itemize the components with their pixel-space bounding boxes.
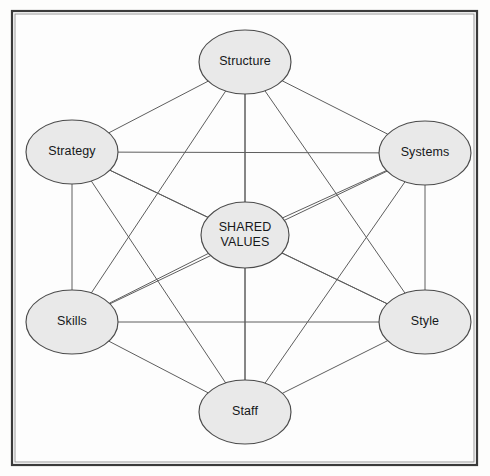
node-skills[interactable]: Skills bbox=[26, 290, 118, 354]
node-shared_values[interactable]: SHAREDVALUES bbox=[201, 202, 289, 268]
node-style[interactable]: Style bbox=[379, 290, 471, 354]
node-label-style: Style bbox=[411, 314, 439, 328]
node-label-strategy: Strategy bbox=[48, 144, 96, 158]
node-label-shared_values-line-2: VALUES bbox=[220, 235, 269, 249]
node-label-staff: Staff bbox=[232, 404, 258, 418]
node-label-systems: Systems bbox=[401, 145, 450, 159]
node-label-skills: Skills bbox=[57, 314, 87, 328]
diagram-canvas: StructureSystemsStyleStaffSkillsStrategy… bbox=[0, 0, 490, 476]
node-systems[interactable]: Systems bbox=[379, 121, 471, 185]
seven-s-framework-diagram: StructureSystemsStyleStaffSkillsStrategy… bbox=[0, 0, 490, 476]
node-staff[interactable]: Staff bbox=[199, 380, 291, 444]
node-label-structure: Structure bbox=[219, 54, 271, 68]
node-strategy[interactable]: Strategy bbox=[26, 120, 118, 184]
node-label-shared_values-line-1: SHARED bbox=[219, 220, 272, 234]
node-structure[interactable]: Structure bbox=[199, 30, 291, 94]
